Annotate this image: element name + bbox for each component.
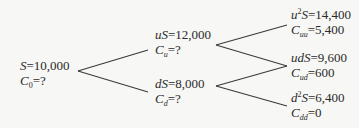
option-value: ?: [175, 91, 181, 106]
root-option: C0=?: [20, 73, 70, 88]
node-updown: udS=9,600 Cud=600: [291, 50, 347, 80]
up-option: Cu=?: [155, 42, 211, 57]
edge-up-upup: [216, 25, 287, 45]
updown-price: udS=9,600: [291, 50, 347, 65]
option-label: C: [155, 42, 164, 57]
option-label: C: [20, 73, 29, 88]
down-option: Cd=?: [155, 91, 205, 106]
upup-option: Cuu=5,400: [291, 22, 351, 37]
node-downdown: d2S=6,400 Cdd=0: [291, 90, 345, 120]
node-down: dS=8,000 Cd=?: [155, 76, 205, 106]
edge-up-updown: [216, 45, 287, 66]
updown-option: Cud=600: [291, 65, 347, 80]
equals-sign: =: [308, 105, 315, 120]
price-label: uS: [155, 27, 168, 42]
option-label: C: [291, 22, 300, 37]
equals-sign: =: [168, 42, 175, 57]
option-value: 600: [315, 65, 335, 80]
downdown-price: d2S=6,400: [291, 90, 345, 105]
option-label: C: [155, 91, 164, 106]
price-value: 14,400: [315, 7, 351, 22]
root-price: S=10,000: [20, 58, 70, 73]
option-value: 5,400: [315, 22, 344, 37]
up-price: uS=12,000: [155, 27, 211, 42]
edge-down-downdown: [216, 86, 287, 106]
equals-sign: =: [311, 50, 318, 65]
option-value: 0: [315, 105, 322, 120]
price-value: 10,000: [34, 58, 70, 73]
node-root: S=10,000 C0=?: [20, 58, 70, 88]
option-value: ?: [175, 42, 181, 57]
option-subscript: uu: [300, 30, 308, 39]
edge-down-updown: [216, 66, 287, 86]
equals-sign: =: [308, 65, 315, 80]
equals-sign: =: [33, 73, 40, 88]
option-label: C: [291, 65, 300, 80]
down-price: dS=8,000: [155, 76, 205, 91]
option-subscript: ud: [300, 73, 308, 82]
price-value: 12,000: [175, 27, 211, 42]
price-label: udS: [291, 50, 311, 65]
edge-root-up: [78, 50, 148, 71]
price-value: 9,600: [318, 50, 347, 65]
edge-root-down: [78, 71, 148, 92]
price-value: 6,400: [315, 90, 344, 105]
price-label: dS: [155, 76, 168, 91]
option-value: ?: [40, 73, 46, 88]
node-up: uS=12,000 Cu=?: [155, 27, 211, 57]
node-upup: u2S=14,400 Cuu=5,400: [291, 7, 351, 37]
downdown-option: Cdd=0: [291, 105, 345, 120]
equals-sign: =: [168, 91, 175, 106]
equals-sign: =: [27, 58, 34, 73]
upup-price: u2S=14,400: [291, 7, 351, 22]
equals-sign: =: [308, 22, 315, 37]
option-subscript: dd: [300, 113, 308, 122]
option-label: C: [291, 105, 300, 120]
price-value: 8,000: [175, 76, 204, 91]
